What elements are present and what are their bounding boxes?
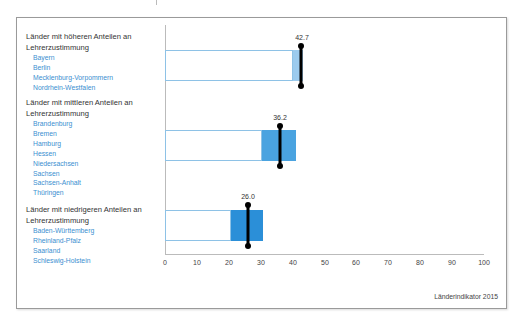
marker-dot	[245, 202, 251, 208]
x-tick: 100	[478, 259, 490, 266]
x-tick: 70	[384, 259, 392, 266]
x-tick: 50	[321, 259, 329, 266]
value-marker-low	[247, 205, 250, 246]
group-low: Länder mit niedrigeren Anteilen an Lehre…	[26, 204, 176, 266]
value-label-high: 42.7	[295, 34, 309, 41]
x-tick: 0	[163, 259, 167, 266]
marker-dot	[245, 243, 251, 249]
list-item: Hamburg	[26, 139, 176, 149]
list-item: Bayern	[26, 53, 176, 63]
list-item: Hessen	[26, 149, 176, 159]
source-label: Länderindikator 2015	[434, 293, 498, 300]
marker-dot	[277, 123, 283, 129]
marker-dot	[298, 43, 304, 49]
list-item: Mecklenburg-Vorpommern	[26, 73, 176, 83]
list-item: Nordrhein-Westfalen	[26, 83, 176, 93]
group-medium: Länder mit mittleren Anteilen an Lehrerz…	[26, 97, 176, 198]
value-marker-medium	[279, 126, 282, 166]
list-item: Niedersachsen	[26, 159, 176, 169]
x-tick: 90	[448, 259, 456, 266]
x-tick: 60	[352, 259, 360, 266]
group-high: Länder mit höheren Anteilen an Lehrerzus…	[26, 31, 176, 93]
group-title: Länder mit mittleren Anteilen an Lehrerz…	[26, 97, 176, 119]
list-item: Berlin	[26, 63, 176, 73]
list-item: Sachsen	[26, 169, 176, 179]
list-item: Sachsen-Anhalt	[26, 178, 176, 188]
marker-dot	[277, 163, 283, 169]
list-item: Rheinland-Pfalz	[26, 236, 176, 246]
group-title: Länder mit höheren Anteilen an Lehrerzus…	[26, 31, 176, 53]
bar-outline-high	[165, 50, 293, 81]
x-tick: 80	[416, 259, 424, 266]
chart-frame: Länder mit höheren Anteilen an Lehrerzus…	[16, 17, 507, 309]
x-tick: 40	[289, 259, 297, 266]
x-tick: 20	[225, 259, 233, 266]
group-title: Länder mit niedrigeren Anteilen an Lehre…	[26, 204, 176, 226]
x-tick: 30	[257, 259, 265, 266]
bar-outline-medium	[165, 130, 262, 161]
marker-dot	[298, 83, 304, 89]
bar-outline-low	[165, 210, 231, 241]
value-label-low: 26.0	[241, 193, 255, 200]
list-item: Saarland	[26, 246, 176, 256]
x-tick: 10	[193, 259, 201, 266]
list-item: Thüringen	[26, 188, 176, 198]
x-axis-line	[165, 254, 484, 255]
list-item: Schleswig-Holstein	[26, 256, 176, 266]
list-item: Brandenburg	[26, 119, 176, 129]
list-item: Bremen	[26, 129, 176, 139]
list-item: Baden-Württemberg	[26, 226, 176, 236]
value-label-medium: 36.2	[273, 114, 287, 121]
value-marker-high	[300, 46, 303, 86]
top-mark	[156, 0, 157, 5]
